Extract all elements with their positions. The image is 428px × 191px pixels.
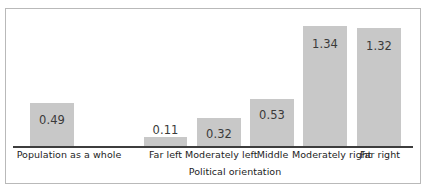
x-axis-line bbox=[13, 146, 413, 148]
x-tick-label: Middle bbox=[250, 149, 295, 160]
x-axis-title: Political orientation bbox=[160, 166, 310, 177]
bar-value-label: 0.32 bbox=[197, 127, 241, 141]
plot-area: 0.490.110.320.531.341.32 bbox=[13, 12, 413, 147]
x-tick-label: Moderately right bbox=[292, 149, 362, 160]
bar-value-label: 1.32 bbox=[357, 39, 401, 53]
bar-value-label: 0.11 bbox=[144, 123, 187, 137]
bar-value-label: 0.49 bbox=[30, 113, 74, 127]
bar-value-label: 1.34 bbox=[303, 37, 347, 51]
bar: 0.49 bbox=[30, 103, 74, 147]
bar: 1.34 bbox=[303, 26, 347, 147]
x-tick-label: Population as a whole bbox=[14, 149, 124, 160]
bar: 0.53 bbox=[250, 99, 294, 147]
x-tick-label: Far right bbox=[356, 149, 404, 160]
x-tick-label: Far left bbox=[143, 149, 188, 160]
x-tick-label: Moderately left bbox=[185, 149, 253, 160]
bar-value-label: 0.53 bbox=[250, 108, 294, 122]
x-axis-tick-labels: Population as a wholeFar leftModerately … bbox=[0, 149, 428, 163]
bar: 0.32 bbox=[197, 118, 241, 147]
bar-chart-figure: 0.490.110.320.531.341.32 Population as a… bbox=[0, 0, 428, 191]
bar: 1.32 bbox=[357, 28, 401, 147]
